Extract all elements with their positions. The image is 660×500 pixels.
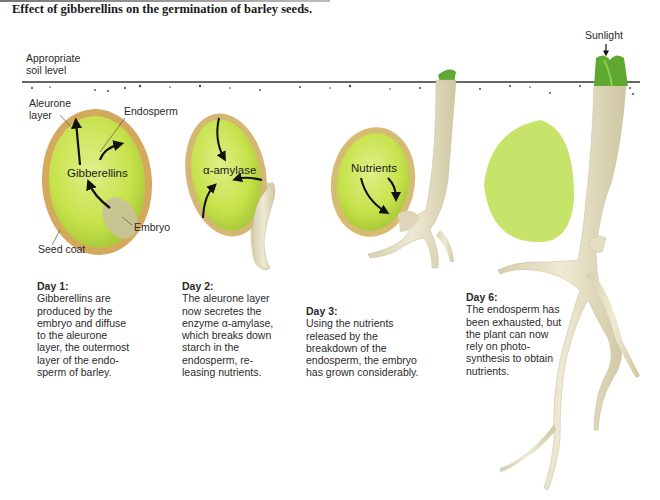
aleurone-label-line2: layer xyxy=(29,109,71,121)
caption-line: embryo and diffuse xyxy=(37,317,129,329)
caption-line: endosperm, the embryo xyxy=(306,354,418,366)
soil-level-label-line1: Appropriate xyxy=(26,52,80,64)
caption-line: The endosperm has xyxy=(466,303,561,315)
caption-line: Using the nutrients xyxy=(306,317,418,329)
caption-line: endosperm, re- xyxy=(182,354,273,366)
nutrients-label: Nutrients xyxy=(351,162,397,174)
seed-coat-label: Seed coat xyxy=(38,243,85,255)
embryo-label: Embryo xyxy=(134,221,170,233)
gibberellins-label: Gibberellins xyxy=(67,167,128,179)
caption-line: breakdown of the xyxy=(306,342,418,354)
alpha-amylase-label: α-amylase xyxy=(203,164,256,176)
day2-caption: Day 2: The aleurone layer now secretes t… xyxy=(182,280,273,378)
caption-line: The aleurone layer xyxy=(182,292,273,304)
caption-line: layer of the endo- xyxy=(37,354,129,366)
day1-caption: Day 1: Gibberellins are produced by the … xyxy=(37,280,129,378)
day6-plant xyxy=(484,55,640,490)
caption-line: rely on photo- xyxy=(466,340,561,352)
caption-line: which breaks down xyxy=(182,329,273,341)
caption-line: been exhausted, but xyxy=(466,316,561,328)
caption-line: layer, the outermost xyxy=(37,341,129,353)
caption-line: sperm of barley. xyxy=(37,366,129,378)
caption-line: released by the xyxy=(306,330,418,342)
caption-line: nutrients. xyxy=(466,365,561,377)
soil-line xyxy=(22,82,640,95)
day6-heading: Day 6: xyxy=(466,291,561,303)
soil-level-label: Appropriate soil level xyxy=(26,52,80,76)
caption-line: Gibberellins are xyxy=(37,292,129,304)
caption-line: now secretes the xyxy=(182,305,273,317)
day3-heading: Day 3: xyxy=(306,305,418,317)
caption-line: enzyme α-amylase, xyxy=(182,317,273,329)
day2-seed xyxy=(176,107,276,270)
day2-heading: Day 2: xyxy=(182,280,273,292)
caption-line: has grown considerably. xyxy=(306,366,418,378)
endosperm-label: Endosperm xyxy=(124,105,178,117)
aleurone-layer-label: Aleurone layer xyxy=(29,97,71,121)
day1-seed xyxy=(37,105,157,258)
caption-line: produced by the xyxy=(37,305,129,317)
caption-line: leasing nutrients. xyxy=(182,366,273,378)
sunlight-label: Sunlight xyxy=(585,29,623,41)
aleurone-label-line1: Aleurone xyxy=(29,97,71,109)
caption-line: starch in the xyxy=(182,341,273,353)
day3-caption: Day 3: Using the nutrients released by t… xyxy=(306,305,418,379)
caption-line: synthesis to obtain xyxy=(466,352,561,364)
soil-level-label-line2: soil level xyxy=(26,64,80,76)
day1-heading: Day 1: xyxy=(37,280,129,292)
day6-caption: Day 6: The endosperm has been exhausted,… xyxy=(466,291,561,377)
caption-line: to the aleurone xyxy=(37,329,129,341)
caption-line: the plant can now xyxy=(466,328,561,340)
germination-illustration xyxy=(0,0,660,500)
